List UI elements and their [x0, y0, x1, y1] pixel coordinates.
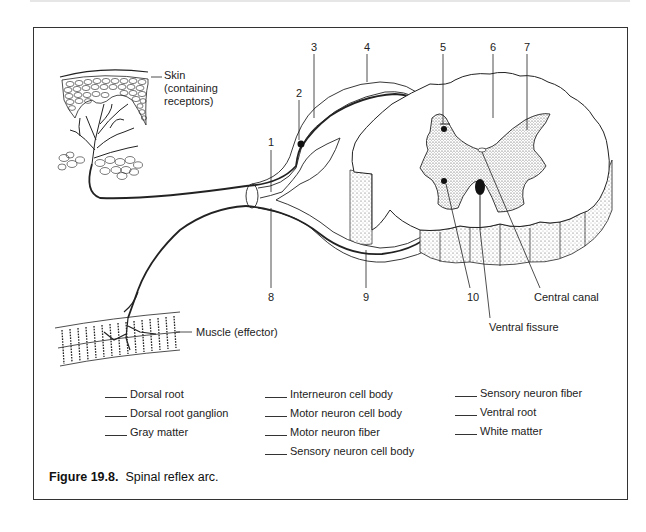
legend-label: Sensory neuron fiber — [480, 387, 582, 399]
figure-number: Figure 19.8. — [49, 470, 118, 484]
legend-item-motor-neuron-fiber[interactable]: Motor neuron fiber — [265, 426, 380, 438]
legend-label: Motor neuron cell body — [290, 407, 402, 419]
muscle-illustration — [55, 206, 246, 366]
answer-blank[interactable] — [455, 425, 477, 435]
answer-blank[interactable] — [105, 388, 127, 398]
answer-blank[interactable] — [265, 388, 287, 398]
callout-number-6: 6 — [490, 41, 496, 53]
skin-label-line1: Skin — [164, 69, 218, 82]
legend-label: Ventral root — [480, 406, 536, 418]
legend-label: Sensory neuron cell body — [290, 445, 414, 457]
legend-item-gray-matter[interactable]: Gray matter — [105, 426, 188, 438]
answer-blank[interactable] — [265, 426, 287, 436]
central-canal-label: Central canal — [534, 291, 599, 304]
legend-item-ventral-root[interactable]: Ventral root — [455, 406, 536, 418]
legend-label: Interneuron cell body — [290, 388, 393, 400]
legend-item-motor-neuron-cell-body[interactable]: Motor neuron cell body — [265, 407, 402, 419]
ventral-fissure-label: Ventral fissure — [489, 321, 559, 334]
answer-blank[interactable] — [265, 407, 287, 417]
legend-label: Dorsal root — [130, 388, 184, 400]
skin-label: Skin (containing receptors) — [164, 69, 218, 108]
callout-number-3: 3 — [311, 41, 317, 53]
legend-item-sensory-neuron-fiber[interactable]: Sensory neuron fiber — [455, 387, 582, 399]
answer-blank[interactable] — [105, 407, 127, 417]
legend-label: Gray matter — [130, 426, 188, 438]
callout-number-2: 2 — [296, 87, 302, 99]
figure-caption: Figure 19.8. Spinal reflex arc. — [49, 470, 219, 484]
answer-blank[interactable] — [455, 406, 477, 416]
answer-blank[interactable] — [105, 426, 127, 436]
answer-blank[interactable] — [455, 387, 477, 397]
callout-number-9: 9 — [363, 291, 369, 303]
legend-item-dorsal-root-ganglion[interactable]: Dorsal root ganglion — [105, 407, 228, 419]
figure-title: Spinal reflex arc. — [125, 470, 218, 484]
legend-item-interneuron-cell-body[interactable]: Interneuron cell body — [265, 388, 393, 400]
callout-number-4: 4 — [364, 41, 370, 53]
callout-number-7: 7 — [524, 41, 530, 53]
answer-blank[interactable] — [265, 445, 287, 455]
callout-number-8: 8 — [268, 291, 274, 303]
legend-label: White matter — [480, 425, 542, 437]
legend-label: Dorsal root ganglion — [130, 407, 228, 419]
legend-item-dorsal-root[interactable]: Dorsal root — [105, 388, 184, 400]
callout-number-10: 10 — [467, 291, 479, 303]
legend-label: Motor neuron fiber — [290, 426, 380, 438]
skin-label-line3: receptors) — [164, 95, 218, 108]
legend-item-white-matter[interactable]: White matter — [455, 425, 542, 437]
callout-number-5: 5 — [440, 41, 446, 53]
skin-label-line2: (containing — [164, 82, 218, 95]
legend-item-sensory-neuron-cell-body[interactable]: Sensory neuron cell body — [265, 445, 414, 457]
callout-number-1: 1 — [268, 136, 274, 148]
muscle-label: Muscle (effector) — [196, 326, 278, 339]
